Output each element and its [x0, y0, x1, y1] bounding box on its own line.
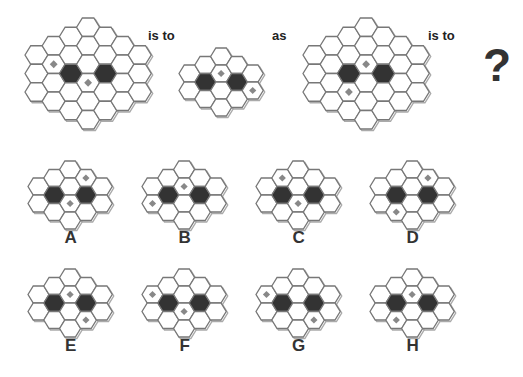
option-h-grid[interactable]: [369, 268, 456, 339]
option-b-label[interactable]: B: [170, 228, 200, 248]
hex-cell: [205, 303, 226, 320]
option-g-grid[interactable]: [255, 268, 342, 339]
hex-cell: [91, 303, 112, 320]
option-h-label[interactable]: H: [398, 336, 428, 356]
hex-cell: [319, 286, 340, 303]
hex-cell: [205, 178, 226, 195]
hex-grid-premise-c: [302, 17, 431, 131]
hex-cell: [91, 195, 112, 212]
hex-cell: [128, 64, 151, 83]
hex-cell: [91, 178, 112, 195]
is-to-label-2: is to: [428, 28, 455, 43]
hex-cell: [319, 178, 340, 195]
option-g-label[interactable]: G: [284, 336, 314, 356]
option-e-label[interactable]: E: [56, 336, 86, 356]
option-f-label[interactable]: F: [170, 336, 200, 356]
is-to-label-1: is to: [148, 28, 175, 43]
hex-grid-premise-b: [178, 47, 265, 118]
hex-grid-premise-a: [24, 17, 153, 131]
hex-cell: [406, 64, 429, 83]
hex-cell: [433, 178, 454, 195]
as-label: as: [272, 28, 286, 43]
hex-cell: [242, 65, 263, 82]
option-b-grid[interactable]: [141, 160, 228, 231]
hex-cell: [433, 195, 454, 212]
hex-cell: [319, 303, 340, 320]
hex-cell: [128, 83, 151, 102]
option-a-label[interactable]: A: [56, 228, 86, 248]
hex-cell: [433, 303, 454, 320]
hex-cell: [205, 195, 226, 212]
hex-cell: [433, 286, 454, 303]
option-f-grid[interactable]: [141, 268, 228, 339]
hex-cell: [319, 195, 340, 212]
option-a-grid[interactable]: [27, 160, 114, 231]
hex-cell: [406, 83, 429, 102]
hex-cell: [128, 46, 151, 65]
hex-cell: [205, 286, 226, 303]
question-mark: ?: [483, 42, 511, 88]
option-c-label[interactable]: C: [284, 228, 314, 248]
option-d-label[interactable]: D: [398, 228, 428, 248]
hex-cell: [406, 46, 429, 65]
option-e-grid[interactable]: [27, 268, 114, 339]
option-d-grid[interactable]: [369, 160, 456, 231]
option-c-grid[interactable]: [255, 160, 342, 231]
hex-cell: [91, 286, 112, 303]
